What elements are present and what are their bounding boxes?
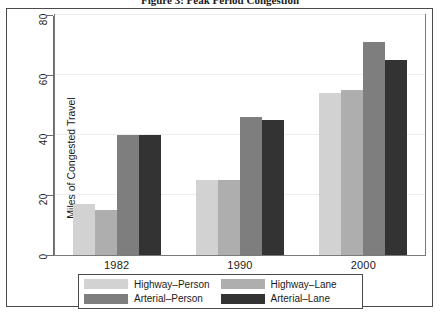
bar xyxy=(117,135,139,255)
bar xyxy=(363,42,385,255)
bar xyxy=(319,93,341,255)
bar xyxy=(139,135,161,255)
bar xyxy=(218,180,240,255)
bar xyxy=(95,210,117,255)
legend-label: Highway–Person xyxy=(134,279,210,290)
legend-swatch xyxy=(221,279,265,289)
legend-swatch xyxy=(221,294,265,304)
chart-legend: Highway–PersonHighway–LaneArterial–Perso… xyxy=(78,274,363,309)
legend-entry: Arterial–Lane xyxy=(221,293,358,304)
x-axis-group-label: 2000 xyxy=(351,259,376,271)
figure-title: Figure 3: Peak Period Congestion xyxy=(0,0,440,6)
legend-label: Highway–Lane xyxy=(271,279,337,290)
x-axis-group-label: 1982 xyxy=(104,259,129,271)
y-axis-tick-label: 40 xyxy=(39,134,50,146)
bar xyxy=(73,204,95,255)
legend-swatch xyxy=(84,279,128,289)
bar xyxy=(262,120,284,255)
legend-entry: Arterial–Person xyxy=(84,293,221,304)
legend-swatch xyxy=(84,294,128,304)
y-axis-tick-label: 20 xyxy=(39,194,50,206)
figure-container: Figure 3: Peak Period Congestion 0204060… xyxy=(0,0,440,315)
x-axis-group-label: 1990 xyxy=(227,259,252,271)
legend-label: Arterial–Person xyxy=(134,293,203,304)
y-axis-line xyxy=(53,16,54,256)
bar xyxy=(240,117,262,255)
y-axis-tick-label: 0 xyxy=(39,254,50,260)
bars-layer xyxy=(55,15,425,255)
legend-entry: Highway–Lane xyxy=(221,279,358,290)
y-axis-tick-label: 80 xyxy=(39,14,50,26)
legend-label: Arterial–Lane xyxy=(271,293,330,304)
legend-entry: Highway–Person xyxy=(84,279,221,290)
bar xyxy=(341,90,363,255)
bar xyxy=(196,180,218,255)
y-axis-tick-label: 60 xyxy=(39,74,50,86)
bar xyxy=(385,60,407,255)
